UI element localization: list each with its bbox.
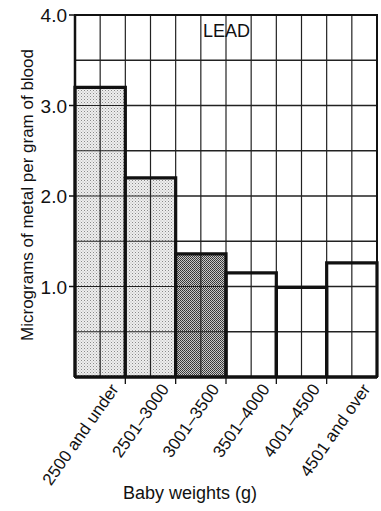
x-tick-label: 2500 and under: [39, 380, 123, 489]
y-tick-label: 3.0: [41, 96, 67, 117]
y-tick-label: 1.0: [41, 277, 67, 298]
y-axis-label: Micrograms of metal per gram of blood: [18, 49, 37, 341]
bar-chart: 1.02.03.04.0 2500 and under2501–30003001…: [0, 0, 381, 511]
x-axis-label: Baby weights (g): [123, 483, 257, 503]
chart-title: LEAD: [203, 21, 250, 41]
y-tick-label: 4.0: [41, 5, 67, 26]
x-axis-category-labels: 2500 and under2501–30003001–35003501–400…: [39, 377, 375, 489]
y-tick-label: 2.0: [41, 186, 67, 207]
y-axis-ticks: 1.02.03.04.0: [41, 5, 75, 298]
